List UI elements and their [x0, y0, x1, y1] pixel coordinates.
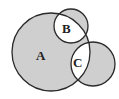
label-b: B — [62, 21, 71, 36]
label-a: A — [36, 48, 46, 63]
label-c: C — [73, 55, 82, 70]
venn-diagram: A B C — [0, 0, 119, 99]
